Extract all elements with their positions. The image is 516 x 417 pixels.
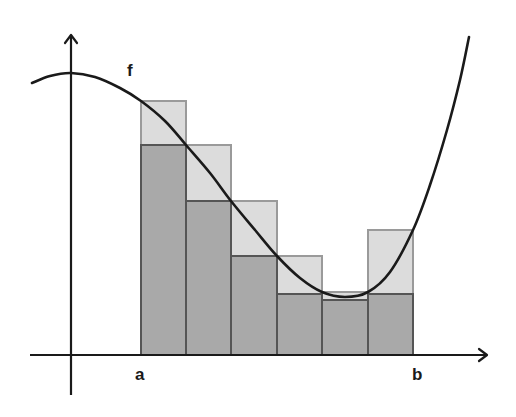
lower-rectangle-5 (322, 300, 368, 355)
lower-rectangle-3 (231, 256, 277, 355)
lower-rectangle-6 (368, 294, 413, 355)
function-label-f: f (127, 62, 133, 79)
bound-label-b: b (412, 366, 422, 383)
bound-label-a: a (135, 366, 144, 383)
lower-rectangle-4 (277, 294, 322, 355)
lower-rectangle-2 (186, 201, 231, 355)
riemann-sum-diagram (0, 0, 516, 417)
lower-rectangle-1 (141, 145, 186, 355)
